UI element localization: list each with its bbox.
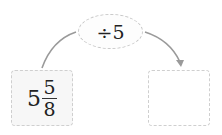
input-box: 5 5 8 [11, 70, 73, 126]
answer-box[interactable] [148, 70, 210, 126]
right-arc-arrow [145, 32, 180, 62]
arrowhead-icon [176, 60, 184, 67]
denominator: 8 [43, 100, 55, 119]
left-arc-arrow [42, 32, 76, 68]
operation-label: ÷5 [96, 21, 124, 43]
numerator: 5 [43, 78, 55, 97]
operation-oval: ÷5 [78, 14, 143, 49]
fraction: 5 8 [42, 78, 57, 119]
whole-part: 5 [27, 86, 41, 111]
mixed-number: 5 5 8 [27, 78, 57, 119]
